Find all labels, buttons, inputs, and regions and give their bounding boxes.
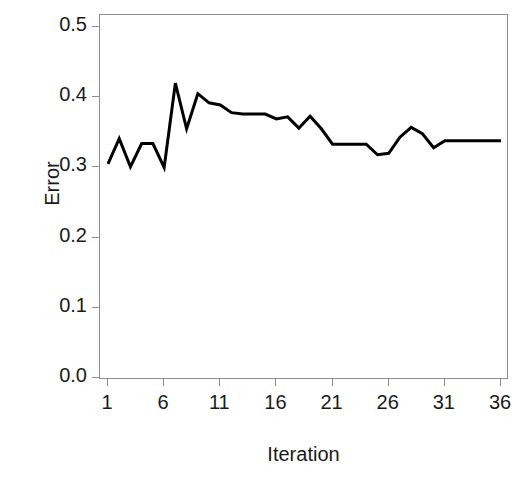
x-tick-label: 6 xyxy=(133,391,193,414)
y-tick-mark xyxy=(92,307,99,308)
x-tick-mark xyxy=(219,379,220,386)
x-axis-label: Iteration xyxy=(99,443,508,466)
y-tick-mark xyxy=(92,26,99,27)
x-tick-mark xyxy=(107,379,108,386)
x-tick-mark xyxy=(332,379,333,386)
chart-title-cropped xyxy=(140,0,400,3)
y-tick-label: 0.0 xyxy=(17,364,87,387)
y-tick-mark xyxy=(92,377,99,378)
chart-figure: Error Iteration 0.00.10.20.30.40.5 16111… xyxy=(0,0,531,500)
y-tick-label: 0.4 xyxy=(17,83,87,106)
x-tick-label: 36 xyxy=(470,391,530,414)
x-tick-mark xyxy=(500,379,501,386)
x-tick-mark xyxy=(444,379,445,386)
x-tick-label: 26 xyxy=(358,391,418,414)
x-tick-label: 11 xyxy=(189,391,249,414)
y-tick-label: 0.1 xyxy=(17,294,87,317)
y-tick-mark xyxy=(92,166,99,167)
plot-area xyxy=(99,14,508,379)
y-tick-mark xyxy=(92,96,99,97)
error-series-line xyxy=(108,83,501,167)
x-tick-label: 1 xyxy=(77,391,137,414)
y-tick-label: 0.3 xyxy=(17,153,87,176)
x-tick-mark xyxy=(275,379,276,386)
y-tick-label: 0.5 xyxy=(17,13,87,36)
x-tick-label: 31 xyxy=(414,391,474,414)
x-tick-label: 21 xyxy=(302,391,362,414)
x-tick-label: 16 xyxy=(245,391,305,414)
x-tick-mark xyxy=(388,379,389,386)
y-tick-label: 0.2 xyxy=(17,224,87,247)
y-tick-mark xyxy=(92,237,99,238)
error-line-chart xyxy=(100,15,509,380)
x-tick-mark xyxy=(163,379,164,386)
